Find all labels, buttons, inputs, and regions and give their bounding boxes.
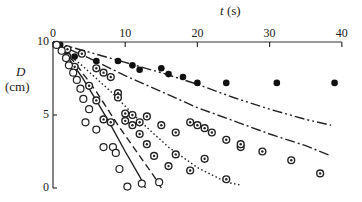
data-point-dot-center: [110, 76, 112, 78]
data-point-dot-center: [175, 131, 177, 133]
data-point-dot-center: [95, 67, 97, 69]
data-point-open: [80, 95, 87, 102]
y-tick-label: 10: [37, 35, 49, 47]
data-point-dot-center: [153, 155, 155, 157]
y-tick-label: 0: [43, 181, 49, 193]
data-point-dot-center: [160, 124, 162, 126]
data-point-dot-center: [110, 121, 112, 123]
data-point-dot-center: [117, 96, 119, 98]
data-point-open: [156, 179, 163, 186]
data-point-open: [77, 85, 84, 92]
data-point-filled: [93, 58, 100, 65]
data-point-filled: [129, 62, 136, 69]
data-point-dot-center: [138, 133, 140, 135]
data-point-dot-center: [88, 85, 90, 87]
y-tick-label: 5: [43, 108, 49, 120]
data-point-dot-center: [138, 121, 140, 123]
data-point-filled: [71, 53, 78, 60]
data-point-dot-center: [146, 115, 148, 117]
data-point-open: [65, 62, 72, 69]
y-axis-label-unit: (cm): [5, 80, 30, 93]
data-point-dot-center: [102, 71, 104, 73]
x-tick-label: 20: [191, 27, 203, 39]
data-point-filled: [223, 80, 230, 87]
y-axis-label-var: D: [16, 65, 25, 78]
data-point-dot-center: [124, 120, 126, 122]
data-point-open: [86, 106, 93, 113]
data-point-open: [70, 69, 77, 76]
data-point-open: [82, 119, 89, 126]
data-point-filled: [136, 66, 143, 73]
data-point-filled: [115, 58, 122, 65]
data-point-open: [62, 55, 69, 62]
data-point-dot-center: [175, 153, 177, 155]
data-point-open: [116, 166, 123, 173]
x-axis-unit: (s): [227, 3, 241, 18]
data-point-dot-center: [102, 118, 104, 120]
data-point-dot-center: [66, 48, 68, 50]
data-point-open: [124, 183, 131, 190]
data-point-dot-center: [225, 178, 227, 180]
x-tick-label: 30: [264, 27, 276, 39]
data-point-open: [53, 41, 60, 48]
x-axis-variable: t: [220, 3, 224, 18]
data-point-dot-center: [95, 99, 97, 101]
data-point-filled: [180, 74, 187, 81]
data-point-filled: [274, 80, 281, 87]
data-point-dot-center: [189, 169, 191, 171]
data-point-dot-center: [319, 172, 321, 174]
data-point-dot-center: [131, 124, 133, 126]
data-point-dot-center: [73, 66, 75, 68]
data-point-open: [138, 180, 145, 187]
data-point-filled: [331, 80, 338, 87]
x-tick-label: 0: [50, 27, 56, 39]
data-point-open: [100, 144, 107, 151]
data-point-filled: [165, 71, 172, 78]
data-point-dot-center: [189, 121, 191, 123]
curve-dash-dot-dot: [53, 42, 331, 125]
data-point-dot-center: [290, 159, 292, 161]
data-point-dot-center: [167, 165, 169, 167]
data-point-dot-center: [81, 52, 83, 54]
data-point-filled: [158, 65, 165, 72]
data-point-dot-center: [203, 158, 205, 160]
data-point-open: [112, 149, 119, 156]
data-point-dot-center: [124, 112, 126, 114]
data-point-dot-center: [196, 124, 198, 126]
data-point-open: [58, 47, 65, 54]
data-point-dot-center: [225, 139, 227, 141]
data-point-open: [93, 126, 100, 133]
data-point-dot-center: [211, 131, 213, 133]
data-point-open: [73, 76, 80, 83]
x-axis-label: t (s): [220, 4, 241, 17]
data-point-dot-center: [203, 127, 205, 129]
data-point-filled: [194, 80, 201, 87]
x-tick-label: 40: [336, 27, 348, 39]
x-tick-label: 10: [119, 27, 131, 39]
data-point-dot-center: [146, 143, 148, 145]
data-point-dot-center: [261, 150, 263, 152]
data-point-dot-center: [131, 114, 133, 116]
data-point-dot-center: [240, 143, 242, 145]
